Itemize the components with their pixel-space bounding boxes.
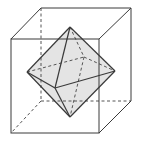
octahedron-face-fill	[27, 27, 115, 117]
cube-octahedron-diagram	[0, 0, 145, 142]
